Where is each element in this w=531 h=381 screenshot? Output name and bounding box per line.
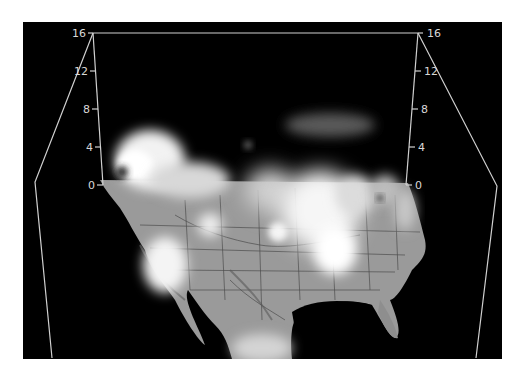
right-tick-12: 12 — [424, 65, 438, 78]
left-tick-16: 16 — [72, 27, 86, 40]
volume-render-scene: 16 12 8 4 0 16 12 8 4 0 — [0, 0, 531, 381]
right-tick-4: 4 — [418, 141, 425, 154]
left-tick-12: 12 — [74, 65, 88, 78]
right-outer-edge — [418, 33, 497, 358]
left-tick-0: 0 — [88, 179, 95, 192]
right-tick-8: 8 — [421, 103, 428, 116]
left-tick-8: 8 — [83, 103, 90, 116]
left-outer-edge — [35, 33, 93, 358]
right-tick-0: 0 — [415, 179, 422, 192]
left-tick-4: 4 — [86, 141, 93, 154]
right-tick-16: 16 — [427, 27, 441, 40]
left-axis-ticks — [88, 33, 103, 185]
